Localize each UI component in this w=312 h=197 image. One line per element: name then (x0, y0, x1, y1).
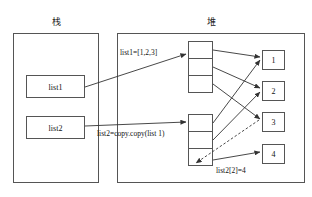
list1-array-cell-2 (189, 76, 213, 93)
list1-array-cell-0 (189, 42, 213, 59)
value-box-label-3: 3 (272, 118, 276, 127)
list2-array-cell-1 (189, 132, 213, 149)
annotation-list2-copy-call: list2=copy.copy(list 1) (97, 129, 165, 138)
annotation-list1-assignment: list1=[1,2,3] (120, 48, 157, 57)
edge-list2-to-array (85, 122, 186, 126)
stack-var-label-list2: list2 (49, 124, 63, 133)
diagram-page: 栈 堆 list1 list2 1 2 3 4 (0, 0, 312, 197)
edge-list1-to-array (85, 54, 186, 87)
memory-model-diagram: 栈 堆 list1 list2 1 2 3 4 (0, 0, 312, 197)
annotation-list2-index-assignment: list2[2]=4 (216, 166, 246, 175)
edge-list2-cell1-to-value2 (213, 92, 260, 140)
edge-list2-cell2-to-value4 (213, 152, 260, 160)
list2-array-cell-2 (189, 149, 213, 166)
value-box-label-4: 4 (272, 150, 276, 159)
stack-var-label-list1: list1 (49, 83, 63, 92)
list1-array-cell-1 (189, 59, 213, 76)
list2-array-cell-0 (189, 115, 213, 132)
value-box-label-2: 2 (272, 87, 276, 96)
edge-list1-cell0-to-value1 (213, 50, 260, 57)
heap-region-title: 堆 (207, 17, 216, 27)
stack-region-container (14, 34, 99, 183)
stack-region-title: 栈 (52, 16, 61, 27)
value-box-label-1: 1 (272, 56, 276, 65)
